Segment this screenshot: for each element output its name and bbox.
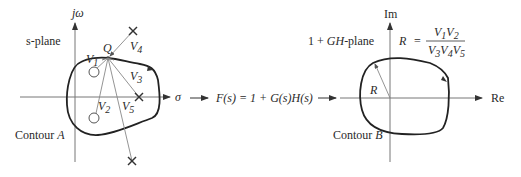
contour-a-label: Contour A: [15, 128, 65, 142]
zero-upper: [89, 67, 99, 77]
v4-label: V4: [130, 39, 142, 55]
contour-a: [67, 58, 160, 135]
nyquist-mapping-diagram: jω σ s-plane Contour A Q V1 V2 V3 V4 V5: [0, 0, 521, 177]
v2-label: V2: [98, 99, 110, 115]
v5-label: V5: [122, 99, 134, 115]
radius-label: R: [369, 83, 378, 97]
mapping-function-text: F(s) = 1 + G(s)H(s): [215, 91, 313, 105]
v1-label: V1: [86, 52, 98, 68]
equation-denominator: V3V4V5: [428, 43, 465, 59]
contour-b-label: Contour B: [333, 128, 383, 142]
pole-lower: [128, 157, 136, 165]
zero-lower: [89, 113, 99, 123]
pole-upper: [129, 27, 137, 35]
im-label: Im: [384, 7, 398, 21]
contour-b-direction-arrow: [441, 76, 447, 82]
s-plane-label: s-plane: [26, 34, 61, 48]
v3-label: V3: [130, 69, 142, 85]
mapping-function: F(s) = 1 + G(s)H(s): [190, 91, 336, 105]
equation-numerator: V1V2: [434, 25, 459, 41]
gh-plane-label: 1 + GH-plane: [308, 34, 374, 48]
re-label: Re: [491, 91, 504, 105]
equation-equals: =: [414, 34, 421, 48]
gh-plane-panel: Im Re 1 + GH-plane Contour B R = V1V2 V3…: [308, 7, 504, 162]
sigma-label: σ: [175, 90, 182, 104]
radius-equation: R = V1V2 V3V4V5: [398, 25, 465, 59]
jomega-label: jω: [70, 6, 84, 20]
s-plane-panel: jω σ s-plane Contour A Q V1 V2 V3 V4 V5: [15, 6, 182, 165]
q-label: Q: [103, 41, 112, 55]
equation-lhs: R: [398, 34, 407, 48]
